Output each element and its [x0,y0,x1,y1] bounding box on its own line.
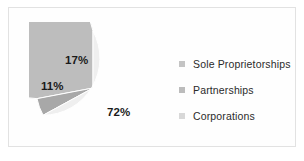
legend-item-partnerships[interactable]: Partnerships [179,77,303,103]
legend-item-sole-proprietorships[interactable]: Sole Proprietorships [179,51,303,77]
square-marker-icon [179,113,185,119]
pie-slice-label-sole-proprietorships: 72% [107,107,130,119]
square-marker-icon [179,87,185,93]
pie-chart-figure: 72% 11% 17% Sole Proprietorships Partner… [0,0,304,161]
pie-slice-label-partnerships: 11% [41,81,64,93]
legend-item-label: Corporations [193,111,255,122]
pie-slice-label-corporations: 17% [65,55,88,67]
legend-item-label: Partnerships [193,85,254,96]
legend-item-corporations[interactable]: Corporations [179,103,303,129]
legend-item-label: Sole Proprietorships [193,59,291,70]
pie-plot-area: 72% 11% 17% [29,22,159,148]
chart-plot-frame: 72% 11% 17% Sole Proprietorships Partner… [8,7,296,147]
square-marker-icon [179,61,185,67]
chart-legend: Sole Proprietorships Partnerships Corpor… [179,51,303,129]
